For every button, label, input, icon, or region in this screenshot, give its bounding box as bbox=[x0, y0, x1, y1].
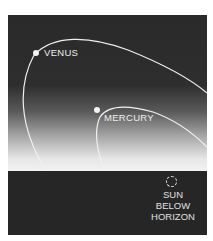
sun-caption-line3: HORIZON bbox=[148, 211, 198, 222]
sun-caption-line1: SUN bbox=[148, 189, 198, 200]
sun-caption-line2: BELOW bbox=[148, 200, 198, 211]
venus-orbit bbox=[23, 39, 207, 171]
venus-marker bbox=[33, 50, 39, 56]
orbit-paths bbox=[8, 15, 207, 171]
venus-label: VENUS bbox=[44, 47, 78, 58]
mercury-label: MERCURY bbox=[104, 112, 154, 123]
diagram-panel: VENUS MERCURY SUN BELOW HORIZON bbox=[8, 15, 207, 235]
sun-caption: SUN BELOW HORIZON bbox=[148, 189, 198, 222]
sun-icon bbox=[166, 176, 177, 187]
mercury-marker bbox=[94, 107, 100, 113]
